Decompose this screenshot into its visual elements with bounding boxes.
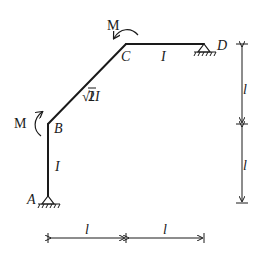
node-label-c: C (121, 49, 131, 64)
frame-members (48, 44, 204, 196)
stiffness-label-cd: I (160, 49, 167, 64)
vertical-dimension (236, 44, 248, 203)
frame-diagram: A B C D I √ I 2 I I M M l l l l (0, 0, 263, 266)
pin-support-d-icon (194, 44, 216, 56)
member-bc (48, 44, 126, 124)
horizontal-dimension (48, 233, 204, 243)
moment-b-icon (35, 112, 42, 136)
dim-vertical-upper: l (243, 82, 247, 97)
dim-horizontal-right: l (163, 222, 167, 237)
stiffness-label-ab: I (54, 159, 61, 174)
node-label-b: B (54, 121, 63, 136)
moment-label-b: M (14, 116, 27, 131)
node-label-d: D (216, 38, 227, 53)
moment-label-c: M (107, 18, 120, 33)
dim-horizontal-left: l (85, 222, 89, 237)
dim-vertical-lower: l (243, 158, 247, 173)
node-label-a: A (26, 192, 36, 207)
stiffness-label-bc-i: I (94, 89, 101, 104)
pin-support-a-icon (38, 196, 60, 208)
stiffness-coef-bc: 2 (88, 89, 95, 104)
